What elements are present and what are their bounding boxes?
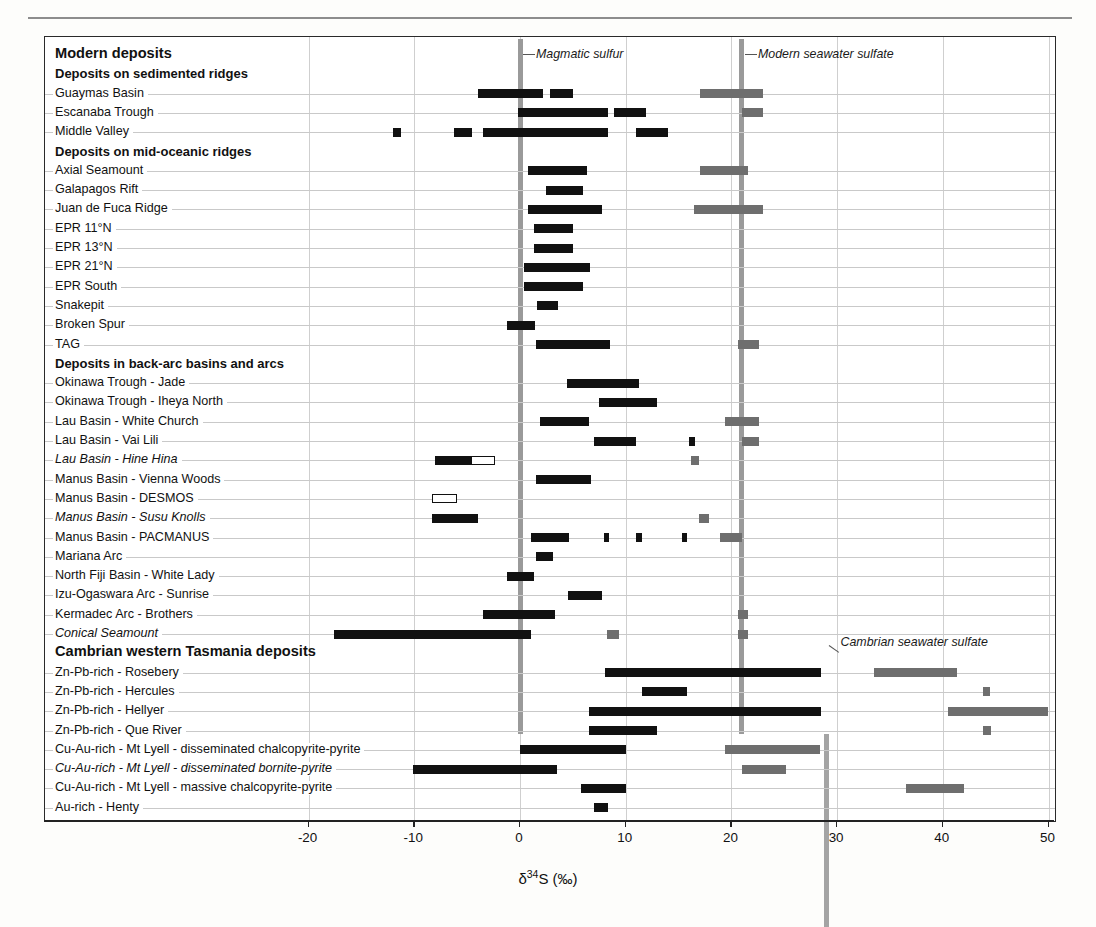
row-label: Escanaba Trough xyxy=(55,106,154,119)
data-bar xyxy=(524,282,583,291)
data-bar xyxy=(413,765,557,774)
data-bar xyxy=(483,610,555,619)
plot-area: Modern depositsDeposits on sedimented ri… xyxy=(45,37,1055,821)
row-label: EPR 21°N xyxy=(55,260,113,273)
data-bar xyxy=(507,572,533,581)
row-label: Kermadec Arc - Brothers xyxy=(55,608,193,621)
row-label: Manus Basin - PACMANUS xyxy=(55,531,209,544)
row-label: Juan de Fuca Ridge xyxy=(55,202,168,215)
gridline--20 xyxy=(309,37,310,821)
row-label: Okinawa Trough - Iheya North xyxy=(55,395,223,408)
data-bar xyxy=(483,128,608,137)
row-leader-line xyxy=(45,441,1055,442)
axis-tick xyxy=(413,820,414,827)
annotation-leader xyxy=(523,54,535,55)
data-bar xyxy=(518,108,608,117)
gridline-20 xyxy=(731,37,732,821)
row-label: TAG xyxy=(55,338,80,351)
data-bar xyxy=(581,784,625,793)
data-bar xyxy=(435,456,471,465)
annotation-label: Modern seawater sulfate xyxy=(758,47,894,61)
data-bar xyxy=(589,707,822,716)
axis-title-sup: 34 xyxy=(527,868,539,880)
row-label: Lau Basin - Hine Hina xyxy=(55,453,178,466)
row-label: Broken Spur xyxy=(55,318,125,331)
row-label: Deposits on sedimented ridges xyxy=(55,67,248,80)
data-bar xyxy=(454,128,472,137)
row-leader-line xyxy=(45,692,1055,693)
axis-tick xyxy=(942,820,943,827)
data-bar xyxy=(700,166,749,175)
data-bar xyxy=(507,321,534,330)
row-label: Cambrian western Tasmania deposits xyxy=(55,644,316,659)
row-label: Modern deposits xyxy=(55,46,172,61)
data-bar xyxy=(691,456,698,465)
data-bar xyxy=(524,263,590,272)
annotation-label: Cambrian seawater sulfate xyxy=(841,635,988,649)
row-label: Guaymas Basin xyxy=(55,87,144,100)
data-bar xyxy=(568,591,603,600)
data-bar xyxy=(642,687,687,696)
row-label: Izu-Ogaswara Arc - Sunrise xyxy=(55,588,209,601)
top-rule xyxy=(28,17,1072,19)
row-label: North Fiji Basin - White Lady xyxy=(55,569,215,582)
row-leader-line xyxy=(45,808,1055,809)
data-bar xyxy=(478,89,544,98)
axis-tick-label: 0 xyxy=(515,830,522,845)
axis-tick-label: 20 xyxy=(723,830,738,845)
data-bar xyxy=(604,533,609,542)
row-label: Manus Basin - Vienna Woods xyxy=(55,473,220,486)
data-bar xyxy=(682,533,687,542)
axis-tick xyxy=(1048,820,1049,827)
row-label: Lau Basin - White Church xyxy=(55,415,199,428)
data-bar xyxy=(948,707,1048,716)
data-bar xyxy=(594,437,636,446)
data-bar xyxy=(874,668,956,677)
data-bar xyxy=(636,533,641,542)
data-bar xyxy=(607,630,620,639)
axis-tick xyxy=(836,820,837,827)
row-label: Conical Seamount xyxy=(55,627,158,640)
axis-tick-label: 40 xyxy=(934,830,949,845)
row-label: Cu-Au-rich - Mt Lyell - disseminated cha… xyxy=(55,743,360,756)
data-bar xyxy=(432,494,456,503)
axis-tick xyxy=(625,820,626,827)
axis-tick-label: 50 xyxy=(1040,830,1055,845)
row-label: Mariana Arc xyxy=(55,550,122,563)
chart-frame: Modern depositsDeposits on sedimented ri… xyxy=(44,36,1056,822)
row-label: EPR 11°N xyxy=(55,222,112,235)
axis-title-rest: S (‰) xyxy=(538,870,577,887)
gridline-40 xyxy=(943,37,944,821)
data-bar xyxy=(983,726,991,735)
data-bar xyxy=(594,803,608,812)
data-bar xyxy=(738,340,759,349)
row-leader-line xyxy=(45,325,1055,326)
data-bar xyxy=(520,745,626,754)
data-bar xyxy=(550,89,573,98)
row-label: Zn-Pb-rich - Rosebery xyxy=(55,666,179,679)
gridline-10 xyxy=(626,37,627,821)
data-bar xyxy=(720,533,742,542)
row-label: Okinawa Trough - Jade xyxy=(55,376,185,389)
gridline--10 xyxy=(414,37,415,821)
data-bar xyxy=(531,533,569,542)
row-label: Lau Basin - Vai Lili xyxy=(55,434,158,447)
data-bar xyxy=(605,668,822,677)
axis-tick-label: -20 xyxy=(298,830,317,845)
row-label: Au-rich - Henty xyxy=(55,801,139,814)
data-bar xyxy=(700,89,763,98)
row-leader-line xyxy=(45,383,1055,384)
data-bar xyxy=(906,784,964,793)
data-bar xyxy=(699,514,710,523)
row-label: Manus Basin - Susu Knolls xyxy=(55,511,206,524)
gridline-right-edge xyxy=(1049,37,1050,821)
data-bar xyxy=(983,687,990,696)
data-bar xyxy=(589,726,658,735)
data-bar xyxy=(742,765,786,774)
data-bar xyxy=(742,437,759,446)
row-label: Cu-Au-rich - Mt Lyell - disseminated bor… xyxy=(55,762,332,775)
row-label: EPR South xyxy=(55,280,117,293)
data-bar xyxy=(567,379,640,388)
data-bar xyxy=(528,166,586,175)
